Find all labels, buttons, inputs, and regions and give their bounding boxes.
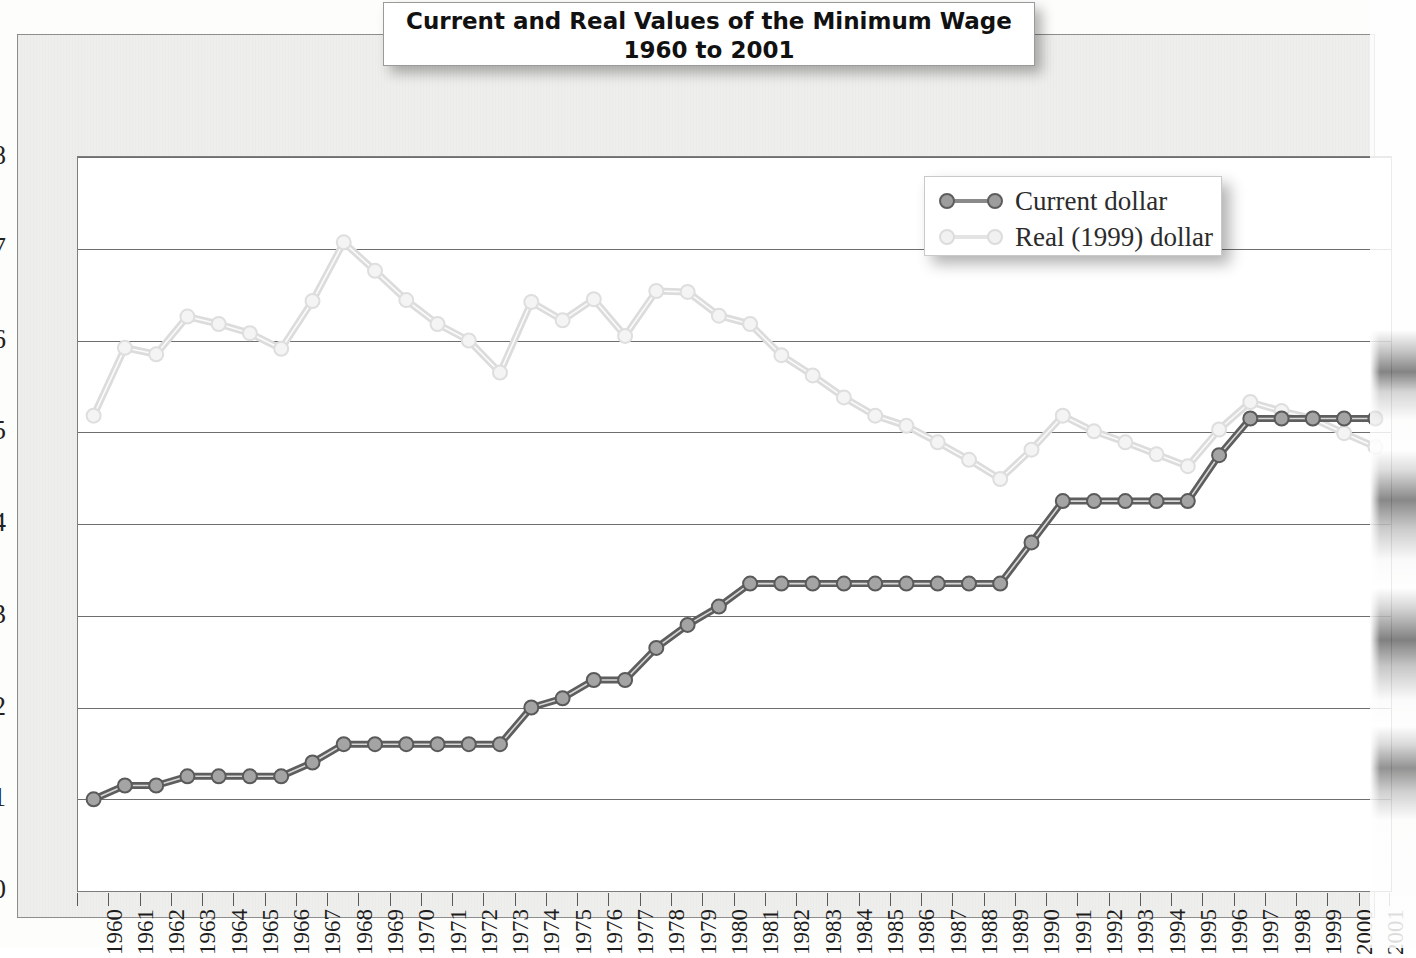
data-point xyxy=(681,618,695,632)
x-axis-label: 1979 xyxy=(696,909,722,955)
x-axis-tick xyxy=(577,893,578,906)
x-axis-label: 1969 xyxy=(383,909,409,955)
data-point xyxy=(212,769,226,783)
series-layer xyxy=(78,157,1391,891)
data-point xyxy=(493,737,507,751)
data-point xyxy=(368,737,382,751)
x-axis-label: 1992 xyxy=(1102,909,1128,955)
data-point xyxy=(1243,412,1257,426)
data-point xyxy=(681,285,695,299)
data-point xyxy=(1087,494,1101,508)
data-point xyxy=(868,577,882,591)
x-axis-tick xyxy=(1140,893,1141,906)
data-point xyxy=(149,347,163,361)
data-point xyxy=(587,292,601,306)
data-point xyxy=(399,737,413,751)
data-point xyxy=(493,366,507,380)
data-point xyxy=(306,756,320,770)
x-axis-tick xyxy=(859,893,860,906)
x-axis-tick xyxy=(1389,893,1390,906)
x-axis-tick xyxy=(1171,893,1172,906)
x-axis-label: 1975 xyxy=(571,909,597,955)
data-point xyxy=(837,577,851,591)
data-point xyxy=(118,779,132,793)
data-point xyxy=(1181,459,1195,473)
data-point xyxy=(1056,409,1070,423)
x-axis-tick xyxy=(984,893,985,906)
x-axis-label: 1987 xyxy=(946,909,972,955)
data-point xyxy=(274,342,288,356)
x-axis-label: 1965 xyxy=(258,909,284,955)
x-axis-label: 1991 xyxy=(1071,909,1097,955)
data-point xyxy=(556,313,570,327)
x-axis-label: 1998 xyxy=(1290,909,1316,955)
series-line-core xyxy=(94,242,1376,479)
data-point xyxy=(1025,535,1039,549)
y-axis-label: 3 xyxy=(0,601,6,628)
data-point xyxy=(1306,412,1320,426)
data-point xyxy=(87,409,101,423)
x-axis-tick xyxy=(827,893,828,906)
x-axis-tick xyxy=(515,893,516,906)
x-axis-label: 1971 xyxy=(446,909,472,955)
x-axis-label: 1970 xyxy=(414,909,440,955)
x-axis-tick xyxy=(1296,893,1297,906)
data-point xyxy=(806,577,820,591)
data-point xyxy=(1212,423,1226,437)
x-axis-label: 1972 xyxy=(477,909,503,955)
data-point xyxy=(1368,412,1382,426)
data-point xyxy=(524,701,538,715)
x-axis-tick xyxy=(952,893,953,906)
x-axis-tick xyxy=(1202,893,1203,906)
data-point xyxy=(1368,440,1382,454)
series-line-casing xyxy=(94,419,1376,800)
data-point xyxy=(931,577,945,591)
x-axis-label: 2000 xyxy=(1352,909,1378,955)
data-point xyxy=(524,295,538,309)
x-axis-label: 1993 xyxy=(1133,909,1159,955)
x-axis-tick xyxy=(1327,893,1328,906)
data-point xyxy=(118,341,132,355)
legend-marker-real-dollar xyxy=(939,229,1003,245)
x-axis-tick xyxy=(171,893,172,906)
series-real-1999-dollar xyxy=(87,235,1383,486)
data-point xyxy=(337,235,351,249)
y-axis-label: 7 xyxy=(0,234,6,261)
y-axis-label: 4 xyxy=(0,509,6,536)
data-point xyxy=(993,472,1007,486)
data-point xyxy=(306,294,320,308)
y-axis-label: 2 xyxy=(0,693,6,720)
x-axis-tick xyxy=(671,893,672,906)
data-point xyxy=(1025,443,1039,457)
data-point xyxy=(837,390,851,404)
x-axis-label: 1988 xyxy=(977,909,1003,955)
data-point xyxy=(649,641,663,655)
data-point xyxy=(712,600,726,614)
data-point xyxy=(180,769,194,783)
y-axis-label: 5 xyxy=(0,417,6,444)
x-axis-label: 1984 xyxy=(852,909,878,955)
data-point xyxy=(1056,494,1070,508)
chart-frame: 012345678 196019611962196319641965196619… xyxy=(17,34,1375,918)
data-point xyxy=(274,769,288,783)
x-axis-tick xyxy=(108,893,109,906)
x-axis-label: 1974 xyxy=(539,909,565,955)
x-axis-label: 1960 xyxy=(102,909,128,955)
x-axis-label: 1967 xyxy=(320,909,346,955)
plot-area xyxy=(77,156,1392,892)
data-point xyxy=(931,435,945,449)
x-axis-label: 1963 xyxy=(195,909,221,955)
x-axis-tick xyxy=(1077,893,1078,906)
x-axis-tick xyxy=(265,893,266,906)
data-point xyxy=(806,368,820,382)
x-axis-tick xyxy=(483,893,484,906)
x-axis-tick xyxy=(765,893,766,906)
data-point xyxy=(587,673,601,687)
x-axis-label: 1997 xyxy=(1258,909,1284,955)
legend-item-current-dollar: Current dollar xyxy=(939,183,1221,219)
data-point xyxy=(337,737,351,751)
x-axis-tick xyxy=(796,893,797,906)
data-point xyxy=(899,577,913,591)
legend-label-real-dollar: Real (1999) dollar xyxy=(1015,224,1213,251)
